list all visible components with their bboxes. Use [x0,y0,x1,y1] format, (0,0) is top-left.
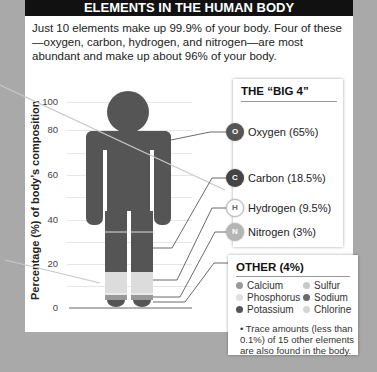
oxygen-badge-icon: O [226,123,244,141]
nitrogen-label: Nitrogen (3%) [248,226,316,238]
other-panel: OTHER (4%) Calcium Sulfur Phosphorus Sod… [228,255,358,355]
other-title: OTHER (4%) [236,261,304,273]
chlorine-dot-icon [303,306,310,313]
element-sulfur: Sulfur [303,280,340,291]
big4-title: THE “BIG 4” [241,85,309,97]
element-phosphorus: Phosphorus [236,292,300,303]
phosphorus-dot-icon [236,294,243,301]
element-chlorine: Chlorine [303,304,351,315]
oxygen-label: Oxygen (65%) [248,126,318,138]
carbon-label: Carbon (18.5%) [248,172,326,184]
calcium-dot-icon [236,282,243,289]
carbon-badge-icon: C [226,169,244,187]
element-sodium: Sodium [303,292,348,303]
trace-note: • Trace amounts (less than 0.1%) of 15 o… [240,323,356,356]
hydrogen-badge-icon: H [226,199,244,217]
hydrogen-label: Hydrogen (9.5%) [248,202,331,214]
element-potassium: Potassium [236,304,294,315]
potassium-dot-icon [236,306,243,313]
sulfur-dot-icon [303,282,310,289]
element-calcium: Calcium [236,280,283,291]
big4-panel: THE “BIG 4” [233,79,343,247]
nitrogen-badge-icon: N [226,223,244,241]
sodium-dot-icon [303,294,310,301]
